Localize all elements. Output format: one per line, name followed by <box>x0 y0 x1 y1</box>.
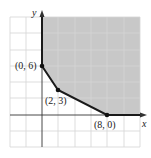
vertex-8-0 <box>105 113 110 118</box>
y-axis-arrow-icon <box>40 10 45 17</box>
vertex-0-6 <box>40 64 45 69</box>
x-axis-label: x <box>141 118 147 129</box>
y-axis-label: y <box>31 7 37 18</box>
vertex-label-2-3: (2, 3) <box>45 95 67 107</box>
vertex-label-8-0: (8, 0) <box>94 119 116 131</box>
vertex-2-3 <box>56 88 61 93</box>
feasible-region-chart: y x (0, 6) (2, 3) (8, 0) <box>0 0 151 158</box>
x-axis-arrow-icon <box>140 113 147 118</box>
vertex-label-0-6: (0, 6) <box>15 60 37 72</box>
